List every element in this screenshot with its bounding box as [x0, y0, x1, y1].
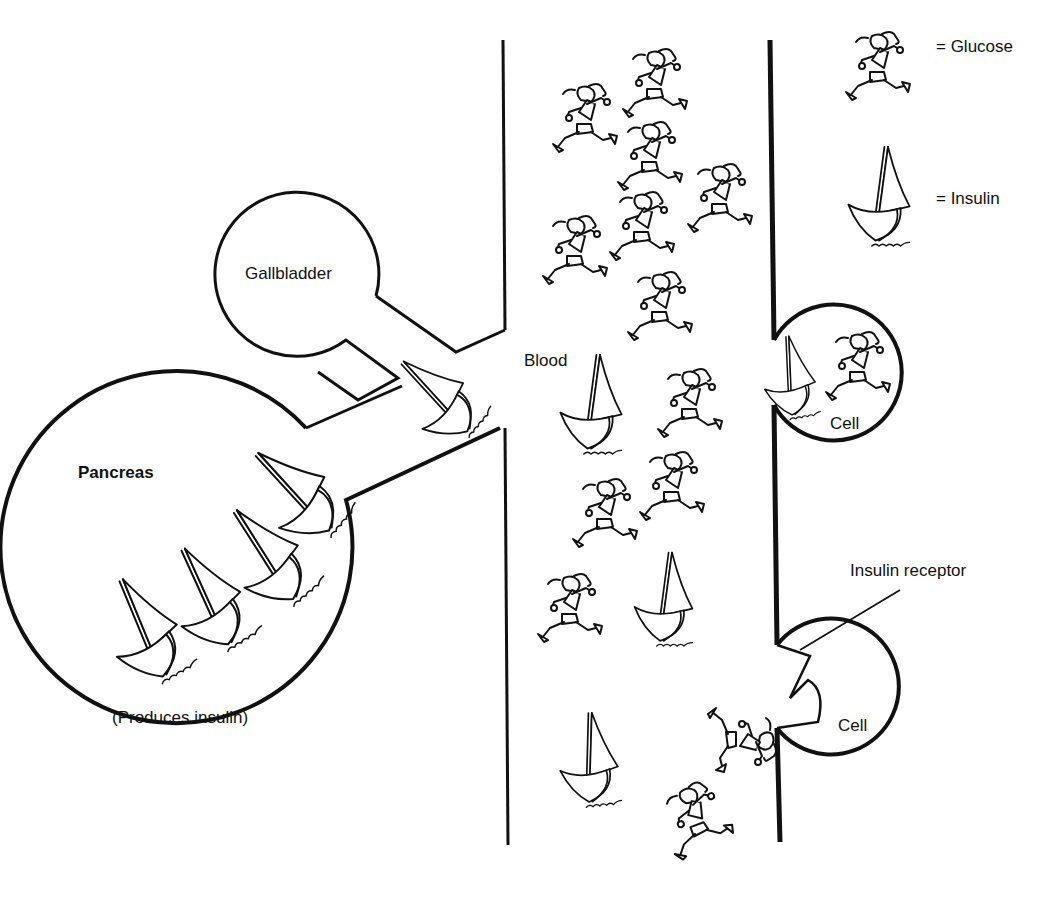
- insulin-glucose-diagram: = Glucose = Insulin Gallbladder Pancreas…: [0, 0, 1044, 898]
- gallbladder-duct: [376, 296, 505, 352]
- gallbladder-label: Gallbladder: [245, 264, 332, 284]
- vessel-wall-left-upper: [503, 40, 505, 330]
- pancreas-caption: (Produces insulin): [112, 708, 248, 728]
- legend-insulin-icon: [848, 147, 909, 246]
- legend-glucose-label: = Glucose: [936, 37, 1013, 57]
- upper-cell-label: Cell: [830, 414, 859, 434]
- diagram-canvas: [0, 0, 1044, 898]
- insulin-group-blood: [555, 333, 821, 810]
- vessel-wall-right-mid: [774, 405, 777, 645]
- lower-cell-label: Cell: [838, 716, 867, 736]
- legend-glucose-icon: [846, 32, 910, 100]
- gallbladder-outline: [215, 192, 398, 400]
- pancreas-duct-top: [306, 386, 402, 428]
- insulin-group-pancreas: [85, 345, 494, 697]
- blood-label: Blood: [524, 351, 567, 371]
- vessel-wall-right-lower: [777, 728, 780, 842]
- pancreas-label: Pancreas: [78, 463, 154, 483]
- legend-insulin-label: = Insulin: [936, 189, 1000, 209]
- vessel-wall-left-lower: [505, 428, 508, 845]
- vessel-wall-right-upper: [770, 40, 774, 340]
- insulin-receptor: [777, 645, 820, 728]
- insulin-receptor-label: Insulin receptor: [850, 561, 966, 581]
- pancreas-outline: [0, 371, 500, 723]
